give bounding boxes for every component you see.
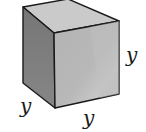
label-bottom-edge: y <box>82 106 95 130</box>
label-left-edge: y <box>19 94 32 118</box>
label-right-edge: y <box>125 43 138 67</box>
cube-diagram: y y y <box>0 0 146 132</box>
